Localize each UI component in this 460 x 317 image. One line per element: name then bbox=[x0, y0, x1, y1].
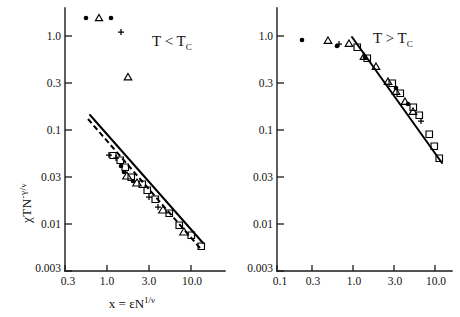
data-point-plus bbox=[155, 204, 161, 210]
data-point-circle bbox=[84, 16, 89, 21]
left-y-label-5: 0.01 bbox=[41, 218, 61, 230]
left-y-label-2: 0.3 bbox=[47, 77, 62, 89]
left-x-label-4: 10.0 bbox=[182, 275, 202, 287]
panel-t-greater-than-tc: 1.0 0.3 0.1 0.03 0.01 0.003 0.1 0.3 1.0 … bbox=[236, 0, 460, 317]
right-panel-plot: 1.0 0.3 0.1 0.03 0.01 0.003 0.1 0.3 1.0 … bbox=[236, 0, 460, 317]
x-axis-title-text: x = εN1/ν bbox=[109, 295, 155, 311]
data-point-square bbox=[426, 131, 433, 138]
right-x-label-1: 0.1 bbox=[273, 275, 288, 287]
right-y-label-3: 0.1 bbox=[259, 124, 274, 136]
data-point-plus bbox=[146, 194, 152, 200]
right-panel-annotation: T > TC bbox=[373, 30, 413, 49]
left-panel-annotation: T < TC bbox=[152, 33, 192, 52]
data-point-plus bbox=[113, 155, 119, 161]
right-y-label-4: 0.03 bbox=[253, 171, 273, 183]
left-x-label-2: 1.0 bbox=[100, 275, 115, 287]
data-point-triangle bbox=[324, 37, 332, 43]
data-point-triangle bbox=[384, 78, 392, 84]
left-y-label-4: 0.03 bbox=[41, 171, 61, 183]
right-x-label-5: 10.0 bbox=[426, 275, 446, 287]
panel-t-less-than-tc: 1.0 0.3 0.1 0.03 0.01 0.003 0.3 1.0 3.0 … bbox=[0, 0, 236, 317]
x-axis-title: x = εN1/ν bbox=[0, 290, 236, 317]
data-point-plus bbox=[118, 29, 124, 35]
data-point-triangle bbox=[124, 74, 132, 80]
right-y-label-6: 0.003 bbox=[247, 262, 273, 274]
left-panel-annotation-sub: C bbox=[186, 42, 192, 52]
left-y-label-3: 0.1 bbox=[47, 124, 62, 136]
data-point-circle bbox=[109, 16, 114, 21]
data-point-circle bbox=[300, 38, 305, 43]
left-x-label-1: 0.3 bbox=[61, 275, 76, 287]
left-x-label-3: 3.0 bbox=[142, 275, 157, 287]
right-y-label-2: 0.3 bbox=[259, 77, 274, 89]
left-y-label-1: 1.0 bbox=[47, 30, 62, 42]
x-axis-title-main: x = εN bbox=[109, 296, 145, 311]
left-panel-annotation-text: T < T bbox=[152, 33, 186, 49]
right-y-label-5: 0.01 bbox=[253, 218, 273, 230]
right-x-label-4: 3.0 bbox=[388, 275, 403, 287]
right-panel-annotation-text: T > T bbox=[373, 30, 407, 46]
right-x-label-3: 1.0 bbox=[347, 275, 362, 287]
data-point-triangle bbox=[392, 88, 400, 94]
right-y-label-1: 1.0 bbox=[259, 30, 274, 42]
figure-root: χTN-γ/ν 1.0 0.3 0.1 0.03 0.01 0.003 bbox=[0, 0, 460, 317]
data-point-square bbox=[416, 112, 423, 119]
right-x-label-2: 0.3 bbox=[306, 275, 321, 287]
x-axis-title-exponent: 1/ν bbox=[144, 295, 155, 305]
data-point-triangle bbox=[345, 40, 353, 46]
left-fit-line-solid bbox=[90, 115, 203, 243]
right-panel-annotation-sub: C bbox=[407, 39, 413, 49]
left-y-label-6: 0.003 bbox=[35, 262, 61, 274]
data-point-triangle bbox=[95, 15, 102, 21]
left-panel-plot: 1.0 0.3 0.1 0.03 0.01 0.003 0.3 1.0 3.0 … bbox=[0, 0, 236, 317]
